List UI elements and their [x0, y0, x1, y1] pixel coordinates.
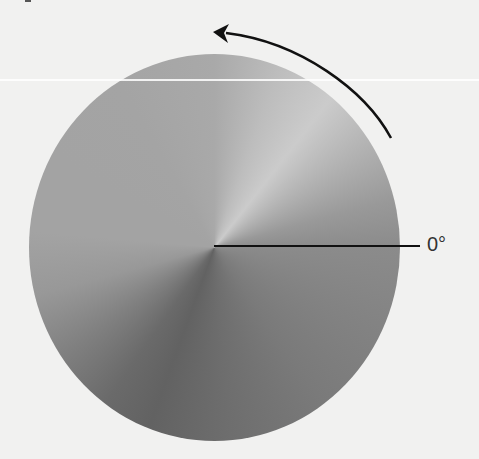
- counterclockwise-arrow-icon: [0, 0, 479, 459]
